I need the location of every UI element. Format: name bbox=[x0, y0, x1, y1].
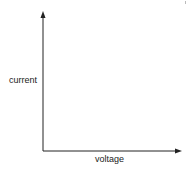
x-axis-label: voltage bbox=[95, 155, 124, 164]
corner-artifact bbox=[185, 1, 186, 4]
y-axis-label: current bbox=[9, 76, 37, 85]
x-axis-arrowhead-icon bbox=[175, 149, 182, 154]
y-axis-arrowhead-icon bbox=[41, 11, 46, 18]
